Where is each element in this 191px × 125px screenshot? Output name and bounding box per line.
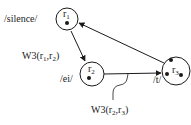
node-r2: r2 xyxy=(80,62,104,86)
phoneme-label-ei: /ei/ xyxy=(60,73,73,84)
phoneme-label-t: /t/ xyxy=(153,74,162,85)
state-dot xyxy=(179,73,183,77)
phoneme-label-silence: /silence/ xyxy=(4,13,38,24)
node-r1: r1 xyxy=(56,8,78,30)
state-dot xyxy=(65,21,69,25)
edge-label-leader xyxy=(113,74,128,100)
edge-r3-r1 xyxy=(79,23,164,63)
node-r1-label: r1 xyxy=(63,8,70,21)
edge-r1-r2 xyxy=(71,31,85,61)
node-r3-label: r3 xyxy=(172,64,179,77)
edge-label-w3-r2-r3: W3(r2,r3) xyxy=(91,104,128,117)
edge-label-w3-r1-r2: W3(r1,r2) xyxy=(22,50,59,63)
node-r3: r3 xyxy=(162,57,190,85)
phoneme-transition-diagram: r1 /silence/ r2 /ei/ r3 /t/ W3(r1,r2) W3… xyxy=(0,0,191,125)
state-dot xyxy=(165,72,169,76)
state-dot xyxy=(169,58,173,62)
state-dot xyxy=(87,76,91,80)
node-r2-label: r2 xyxy=(88,63,95,76)
